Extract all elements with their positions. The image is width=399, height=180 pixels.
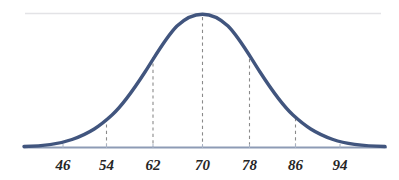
tick-label-70: 70 bbox=[195, 157, 211, 173]
tick-label-54: 54 bbox=[99, 157, 115, 173]
tick-label-86: 86 bbox=[288, 157, 304, 173]
tick-label-78: 78 bbox=[242, 157, 258, 173]
bell-curve-chart: 46 54 62 70 78 86 94 bbox=[0, 0, 399, 180]
tick-label-46: 46 bbox=[55, 157, 72, 173]
chart-background bbox=[0, 0, 399, 180]
bell-curve-figure: 46 54 62 70 78 86 94 bbox=[0, 0, 399, 180]
tick-label-62: 62 bbox=[146, 157, 162, 173]
tick-label-94: 94 bbox=[333, 157, 349, 173]
